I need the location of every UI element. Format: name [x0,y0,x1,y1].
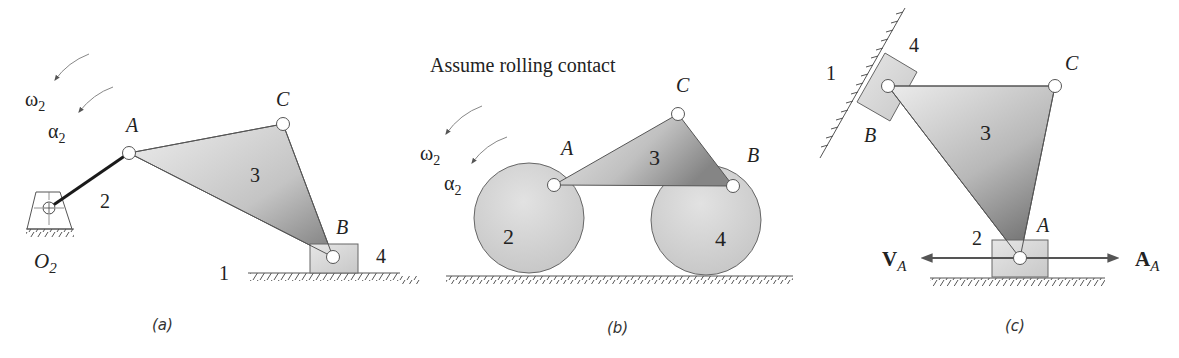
caption-c: (c) [1005,317,1025,335]
ground-hatch [930,278,1105,286]
pin-A-icon [1014,252,1027,265]
ground-hatch [446,276,793,284]
omega-label: ω2 [420,142,440,168]
pin-C-label: C [676,74,690,96]
caption-b: (b) [607,319,628,337]
alpha-arrow-icon [79,87,113,112]
pin-A-icon [123,147,136,160]
pin-C-icon [672,108,685,121]
ground-hatch [26,229,74,237]
link-3-label: 3 [649,145,660,170]
caption-a: (a) [152,316,173,334]
alpha-label: α2 [48,120,65,146]
pin-A-label: A [559,137,574,159]
alpha-arrow-icon [472,137,507,163]
wheel-4-label: 4 [715,226,726,251]
link-2-label: 2 [972,227,982,249]
pin-C-icon [277,118,290,131]
pin-A-label: A [1035,214,1050,236]
pin-B-icon [882,80,895,93]
ground-1-label: 1 [219,262,229,284]
velocity-label: VA [882,247,907,274]
panel-b: Assume rolling contact ω2 α2 2 4 3 A C B… [400,54,793,337]
link-3-triangle [129,124,333,257]
omega-arrow-icon [446,106,482,134]
pin-C-label: C [276,88,290,110]
omega-label: ω2 [25,88,45,114]
link-3-label: 3 [980,120,991,145]
acceleration-label: AA [1135,247,1160,274]
pin-A-icon [548,179,561,192]
pin-A-label: A [124,114,139,136]
omega-arrow-icon [55,54,89,80]
link-3-label: 3 [250,164,260,186]
link-2-label: 2 [100,190,110,212]
rolling-contact-note: Assume rolling contact [430,54,616,77]
pin-B-icon [727,180,740,193]
pin-B-label: B [747,144,759,166]
ground-1-label: 1 [826,62,836,84]
mechanism-figure: ω2 α2 O2 2 3 A C B 4 1 (a) [0,0,1179,358]
link-3-triangle [554,114,733,186]
O2-label: O2 [34,249,57,276]
pin-B-label: B [336,216,348,238]
alpha-label: α2 [444,172,461,198]
wheel-2-label: 2 [503,224,514,249]
pin-C-label: C [1065,52,1079,74]
pin-B-label: B [864,124,876,146]
panel-a: ω2 α2 O2 2 3 A C B 4 1 (a) [25,54,400,334]
link-2 [49,153,129,208]
pin-B-icon [327,251,340,264]
panel-c: 3 1 4 C B A 2 VA AA (c) [820,8,1160,335]
pin-C-icon [1049,80,1062,93]
link-4-label: 4 [376,245,386,267]
slider-4-label: 4 [909,34,919,56]
ground-hatch [250,273,400,281]
